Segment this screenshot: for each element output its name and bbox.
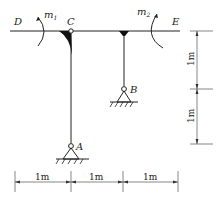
- dim-horizontal-2: 1m: [89, 172, 104, 182]
- pin-support-A: [56, 144, 89, 164]
- label-m2: m2: [137, 6, 150, 18]
- dim-vertical-2: 1m: [186, 108, 196, 123]
- horizontal-dimension: 1m 1m 1m: [15, 171, 178, 192]
- rigid-joint-C: [59, 31, 72, 55]
- dim-horizontal-1: 1m: [35, 172, 50, 182]
- label-B: B: [129, 84, 137, 95]
- label-C: C: [67, 16, 75, 27]
- rigid-joint-top-B: [119, 31, 129, 36]
- dim-vertical-1: 1m: [186, 51, 196, 66]
- label-A: A: [75, 141, 83, 152]
- vertical-dimension: 1m 1m: [186, 31, 213, 144]
- label-D: D: [13, 16, 22, 27]
- frame-diagram: D C E B A m1 m2 1m 1m 1m 1m 1m: [0, 0, 219, 210]
- label-E: E: [171, 16, 180, 27]
- hinge-C: [69, 29, 73, 33]
- label-m1: m1: [44, 9, 57, 21]
- dim-horizontal-3: 1m: [143, 172, 158, 182]
